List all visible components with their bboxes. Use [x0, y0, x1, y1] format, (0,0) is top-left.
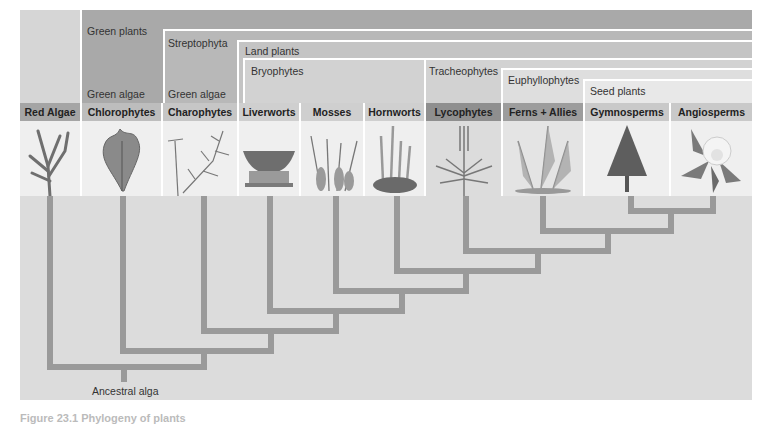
taxon-label-chlorophytes: Chlorophytes	[82, 103, 161, 121]
branch-charophytes	[201, 196, 207, 334]
liverwort-illustration-icon	[239, 121, 299, 196]
angiosperm-illustration-icon	[671, 121, 752, 196]
taxon-label-lycophytes: Lycophytes	[426, 103, 501, 121]
node-green-plants	[120, 348, 274, 354]
clade-label-seed-plants: Seed plants	[590, 85, 645, 97]
taxon-label-gymnosperms: Gymnosperms	[585, 103, 669, 121]
moss-illustration-icon	[301, 121, 363, 196]
figure-caption: Figure 23.1 Phylogeny of plants	[20, 412, 186, 424]
stem-tracheophytes	[535, 248, 541, 274]
chlorophyte-illustration-icon	[82, 121, 161, 196]
hornwort-illustration-icon	[365, 121, 424, 196]
taxon-label-hornworts: Hornworts	[365, 103, 424, 121]
clade-label-tracheophytes: Tracheophytes	[429, 65, 498, 77]
root-stem	[121, 364, 127, 382]
stem-euphyllophytes	[605, 228, 611, 254]
stem-mosses-rest	[399, 288, 405, 314]
band-red-algae-blank	[20, 10, 80, 103]
gymnosperm-illustration-icon	[585, 121, 669, 196]
branch-angiosperms	[710, 196, 716, 214]
stem-green-plants	[201, 348, 207, 370]
taxon-label-ferns-allies: Ferns + Allies	[503, 103, 583, 121]
clade-label-streptophyta: Streptophyta	[168, 37, 228, 49]
sub-label-chlorophytes-green-algae: Green algae	[87, 88, 145, 100]
branch-mosses	[333, 196, 339, 294]
branch-lycophytes	[463, 196, 469, 254]
sub-label-charophytes-green-algae: Green algae	[168, 88, 226, 100]
fern-illustration-icon	[503, 121, 583, 196]
taxon-label-liverworts: Liverworts	[239, 103, 299, 121]
taxon-label-charophytes: Charophytes	[163, 103, 237, 121]
stem-hornworts-tracheophytes	[463, 268, 469, 294]
taxon-label-angiosperms: Angiosperms	[671, 103, 752, 121]
clade-label-bryophytes: Bryophytes	[251, 65, 304, 77]
root-label: Ancestral alga	[92, 385, 159, 397]
taxon-label-mosses: Mosses	[301, 103, 363, 121]
stem-streptophyta	[268, 328, 274, 354]
node-root	[47, 364, 207, 370]
stem-seed-plants	[668, 208, 674, 234]
clade-label-euphyllophytes: Euphyllophytes	[508, 74, 579, 86]
branch-red-algae	[47, 196, 53, 370]
branch-hornworts	[394, 196, 400, 274]
taxon-label-red-algae: Red Algae	[20, 103, 80, 121]
charophyte-illustration-icon	[163, 121, 237, 196]
stem-land-plants	[333, 308, 339, 334]
clade-label-land-plants: Land plants	[245, 45, 299, 57]
branch-chlorophytes	[120, 196, 126, 354]
branch-liverworts	[267, 196, 273, 314]
lycophyte-illustration-icon	[426, 121, 501, 196]
red-algae-illustration-icon	[20, 121, 80, 196]
clade-label-green-plants: Green plants	[87, 25, 147, 37]
